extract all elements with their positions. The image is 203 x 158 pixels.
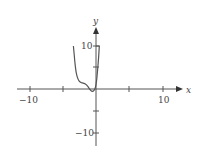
function-curve (73, 46, 99, 91)
y-tick-label-neg10: −10 (75, 128, 94, 138)
y-axis-arrow-icon (93, 27, 99, 34)
x-axis-arrow-icon (176, 86, 183, 92)
x-tick-label-10: 10 (158, 95, 170, 105)
graph: x y −10 10 10 −10 (0, 0, 203, 158)
y-axis-label: y (92, 16, 99, 26)
x-axis-label: x (186, 85, 191, 95)
x-tick-label-neg10: −10 (19, 95, 38, 105)
y-tick-label-10: 10 (81, 41, 93, 51)
